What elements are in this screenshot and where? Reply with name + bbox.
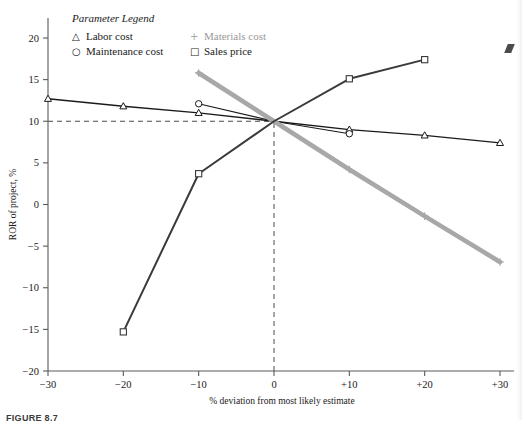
y-tick-label: 5: [34, 157, 39, 168]
y-tick-label: 10: [29, 116, 40, 127]
legend-label-sales-price: Sales price: [204, 45, 252, 57]
y-tick-label: −15: [23, 324, 39, 335]
legend-glyph-maintenance-cost: ○: [72, 46, 81, 57]
x-tick-label: +10: [341, 379, 357, 390]
figure-caption: FIGURE 8.7: [6, 413, 58, 423]
data-point-marker: [120, 329, 126, 335]
legend-glyph-materials-cost: +: [190, 31, 198, 42]
y-tick-label: 0: [34, 199, 39, 210]
y-tick-label: −20: [23, 366, 39, 377]
x-tick-label: +30: [492, 379, 508, 390]
y-tick-label: 15: [29, 74, 40, 85]
chart-legend: Parameter Legend△Labor cost○Maintenance …: [71, 12, 266, 57]
chart-reference-lines: [48, 121, 274, 371]
data-point-marker: [196, 171, 202, 177]
y-axis-title: ROR of project, %: [8, 169, 18, 240]
x-tick-label: 0: [271, 379, 276, 390]
legend-label-maintenance-cost: Maintenance cost: [86, 45, 163, 57]
x-tick-label: −10: [190, 379, 206, 390]
data-point-marker: [346, 76, 352, 82]
x-tick-label: +20: [416, 379, 432, 390]
legend-glyph-labor-cost: △: [72, 31, 80, 42]
y-tick-label: −10: [23, 282, 39, 293]
y-tick-label: −5: [28, 241, 39, 252]
legend-label-labor-cost: Labor cost: [86, 30, 133, 42]
data-point-marker: [422, 57, 428, 63]
data-point-marker: [346, 131, 352, 137]
legend-title: Parameter Legend: [71, 12, 155, 24]
y-tick-label: 20: [29, 33, 40, 44]
x-axis-title: % deviation from most likely estimate: [209, 396, 354, 406]
data-point-marker: [45, 95, 52, 101]
x-tick-label: −20: [115, 379, 131, 390]
data-point-marker: [195, 101, 201, 107]
chart-axes: −20−15−10−505101520−30−20−100+10+20+30: [23, 18, 514, 390]
page-edge-shading: [516, 0, 522, 420]
x-tick-label: −30: [40, 379, 56, 390]
legend-glyph-sales-price: □: [190, 46, 199, 57]
chart-axis-titles: % deviation from most likely estimateROR…: [8, 169, 355, 406]
legend-label-materials-cost: Materials cost: [204, 30, 266, 42]
series-materials-cost: [195, 69, 504, 266]
